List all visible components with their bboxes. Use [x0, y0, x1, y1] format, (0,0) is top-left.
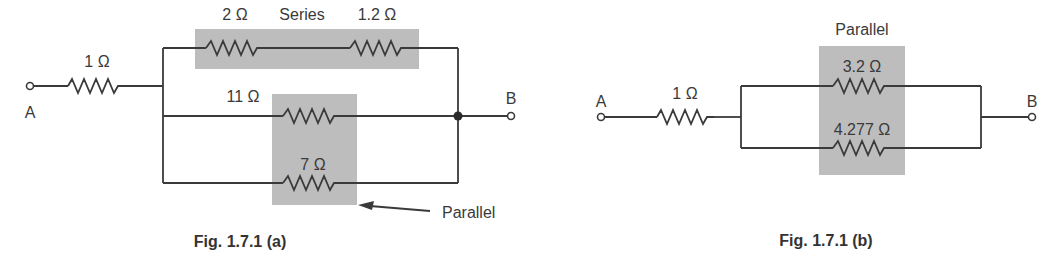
label-parallel: Parallel	[442, 204, 495, 221]
label-r1: 1 Ω	[84, 53, 109, 70]
series-highlight	[195, 29, 419, 69]
terminal-b	[508, 113, 515, 120]
arrow-head-icon	[358, 201, 374, 210]
resistor-1ohm-b	[657, 110, 714, 124]
parallel-arrow	[370, 206, 430, 211]
figure-b: A B 1 Ω Parallel 3.2 Ω 4.277 Ω Fig. 1.7.…	[596, 21, 1038, 249]
label-r1-b: 1 Ω	[672, 85, 697, 102]
parallel-highlight	[272, 94, 357, 205]
label-terminal-b: B	[506, 90, 517, 107]
label-r2-b: 3.2 Ω	[843, 58, 882, 75]
label-series: Series	[279, 6, 324, 23]
label-r3-b: 4.277 Ω	[834, 121, 890, 138]
resistor-1ohm	[68, 79, 124, 93]
label-terminal-a: A	[25, 104, 36, 121]
junction-dot	[454, 112, 463, 121]
caption-b: Fig. 1.7.1 (b)	[779, 232, 872, 249]
label-parallel-b: Parallel	[835, 21, 888, 38]
figure-a: A B 1 Ω 2 Ω Series 1.2 Ω 11 Ω 7 Ω Parall…	[25, 6, 517, 250]
label-r4: 11 Ω	[226, 88, 259, 105]
label-r2: 2 Ω	[222, 6, 247, 23]
circuit-figures: A B 1 Ω 2 Ω Series 1.2 Ω 11 Ω 7 Ω Parall…	[0, 0, 1061, 273]
label-r5: 7 Ω	[300, 156, 325, 173]
terminal-b-b	[1029, 114, 1036, 121]
caption-a: Fig. 1.7.1 (a)	[194, 233, 286, 250]
terminal-a-b	[598, 114, 605, 121]
terminal-a	[27, 83, 34, 90]
label-r3: 1.2 Ω	[358, 6, 397, 23]
label-terminal-b-b: B	[1027, 93, 1038, 110]
label-terminal-a-b: A	[596, 93, 607, 110]
